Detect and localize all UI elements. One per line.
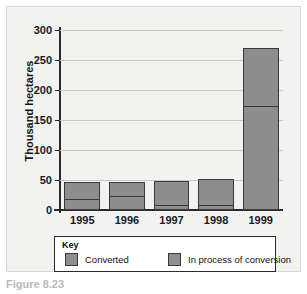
bar-1999 — [243, 48, 279, 210]
y-axis-tick-label: 0 — [46, 204, 52, 216]
bar-1997 — [154, 181, 190, 210]
legend-swatch-converted — [65, 253, 78, 266]
legend-label-in-process: In process of conversion — [188, 254, 291, 265]
legend-label-converted: Converted — [85, 254, 129, 265]
x-axis-tick-label: 1998 — [204, 214, 228, 226]
y-axis-tick-label: 150 — [34, 114, 52, 126]
bar-1995 — [64, 182, 100, 210]
y-axis-tick — [55, 60, 60, 61]
legend-swatch-in-process — [168, 253, 181, 266]
y-axis-tick-label: 200 — [34, 84, 52, 96]
y-axis-tick — [55, 210, 60, 211]
y-axis-tick-label: 250 — [34, 54, 52, 66]
bar-segment-divider-1997 — [155, 205, 189, 206]
y-axis-tick-label: 50 — [40, 174, 52, 186]
chart-panel: Thousand hectares 0501001502002503001995… — [6, 6, 301, 272]
x-axis-tick-label: 1997 — [159, 214, 183, 226]
bar-segment-divider-1996 — [110, 196, 144, 197]
bar-segment-divider-1998 — [199, 205, 233, 206]
y-axis-tick — [55, 30, 60, 31]
legend-item-in-process: In process of conversion — [168, 253, 291, 266]
bar-segment-divider-1999 — [244, 106, 278, 107]
y-axis-tick-label: 100 — [34, 144, 52, 156]
chart-legend: Key Converted In process of conversion — [54, 236, 276, 272]
x-axis-tick-label: 1995 — [70, 214, 94, 226]
y-axis-tick — [55, 180, 60, 181]
figure-caption: Figure 8.23 — [6, 278, 64, 292]
legend-title: Key — [62, 240, 79, 250]
y-axis-tick — [55, 150, 60, 151]
gridline — [60, 30, 283, 31]
legend-item-converted: Converted — [65, 253, 129, 266]
bar-1998 — [198, 179, 234, 210]
plot-area: 05010015020025030019951996199719981999 — [60, 30, 283, 210]
y-axis-tick — [55, 120, 60, 121]
bar-1996 — [109, 182, 145, 210]
y-axis-tick — [55, 90, 60, 91]
y-axis-tick-label: 300 — [34, 24, 52, 36]
figure-container: Thousand hectares 0501001502002503001995… — [0, 0, 307, 294]
x-axis-tick-label: 1996 — [115, 214, 139, 226]
x-axis-tick-label: 1999 — [248, 214, 272, 226]
bar-segment-divider-1995 — [65, 199, 99, 200]
plot-wrapper: Thousand hectares 0501001502002503001995… — [7, 7, 302, 273]
